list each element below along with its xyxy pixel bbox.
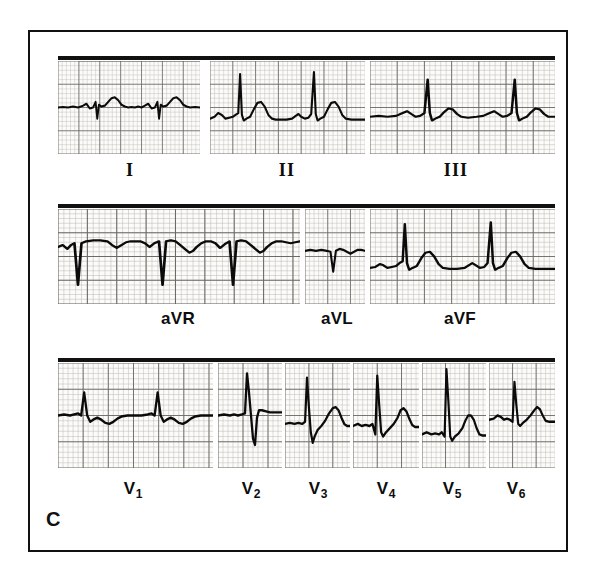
lead-label-II: II bbox=[279, 160, 295, 181]
lead-label-V5-subscript: 5 bbox=[455, 487, 462, 501]
row-separator-bar bbox=[58, 56, 555, 60]
lead-trace-aVL bbox=[305, 209, 365, 304]
lead-label-V1-subscript: 1 bbox=[136, 487, 143, 501]
lead-label-aVL: aVL bbox=[321, 309, 353, 329]
lead-panel-II bbox=[210, 61, 365, 154]
lead-label-V4-subscript: 4 bbox=[389, 487, 396, 501]
lead-label-III: III bbox=[444, 160, 469, 181]
lead-trace-V1 bbox=[58, 363, 213, 468]
lead-label-V3: V3 bbox=[309, 479, 328, 499]
lead-label-V4: V4 bbox=[377, 479, 396, 499]
lead-label-aVR: aVR bbox=[161, 309, 195, 329]
lead-trace-II bbox=[210, 61, 365, 154]
lead-label-V1-text: V bbox=[124, 479, 136, 498]
lead-trace-V4 bbox=[353, 363, 419, 468]
lead-trace-V5 bbox=[422, 363, 486, 468]
lead-trace-aVF bbox=[370, 209, 555, 304]
lead-panel-V6 bbox=[489, 363, 555, 468]
lead-trace-V3 bbox=[285, 363, 350, 468]
row-separator-bar bbox=[58, 358, 555, 362]
lead-label-aVF: aVF bbox=[444, 309, 476, 329]
lead-trace-aVR bbox=[58, 209, 300, 304]
figure-panel-letter: C bbox=[46, 508, 60, 531]
ecg-row-precordial-leads bbox=[58, 358, 555, 468]
lead-label-V4-text: V bbox=[377, 479, 389, 498]
lead-trace-I bbox=[58, 61, 200, 154]
row-separator-bar bbox=[58, 204, 555, 208]
lead-panel-aVR bbox=[58, 209, 300, 304]
lead-trace-V2 bbox=[218, 363, 282, 468]
lead-label-V3-subscript: 3 bbox=[321, 487, 328, 501]
lead-label-V6: V6 bbox=[507, 479, 526, 499]
lead-label-V2-subscript: 2 bbox=[254, 487, 261, 501]
lead-label-V2-text: V bbox=[242, 479, 254, 498]
lead-label-V1: V1 bbox=[124, 479, 143, 499]
lead-panel-aVF bbox=[370, 209, 555, 304]
lead-label-V2: V2 bbox=[242, 479, 261, 499]
lead-trace-III bbox=[370, 61, 555, 154]
lead-panel-V4 bbox=[353, 363, 419, 468]
lead-label-V3-text: V bbox=[309, 479, 321, 498]
lead-trace-V6 bbox=[489, 363, 555, 468]
lead-label-V6-text: V bbox=[507, 479, 519, 498]
ecg-row-augmented-leads bbox=[58, 204, 555, 304]
lead-panel-III bbox=[370, 61, 555, 154]
lead-panel-V1 bbox=[58, 363, 213, 468]
lead-label-V5: V5 bbox=[443, 479, 462, 499]
lead-label-I: I bbox=[126, 160, 134, 181]
lead-panel-V5 bbox=[422, 363, 486, 468]
lead-panel-V3 bbox=[285, 363, 350, 468]
ecg-figure: I II III bbox=[0, 0, 590, 582]
lead-label-V5-text: V bbox=[443, 479, 455, 498]
lead-panel-V2 bbox=[218, 363, 282, 468]
lead-label-V6-subscript: 6 bbox=[519, 487, 526, 501]
lead-panel-I bbox=[58, 61, 200, 154]
lead-panel-aVL bbox=[305, 209, 365, 304]
ecg-row-limb-leads bbox=[58, 56, 555, 154]
